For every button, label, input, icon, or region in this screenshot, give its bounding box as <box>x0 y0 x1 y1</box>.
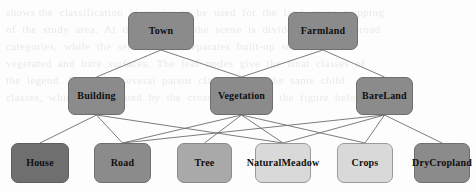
node-vegetation[interactable]: Vegetation <box>210 77 273 115</box>
edge-building-to-road <box>97 115 123 143</box>
node-tree[interactable]: Tree <box>177 143 232 183</box>
node-label: Bare <box>362 90 383 102</box>
edge-farmland-to-vegetation <box>242 50 324 77</box>
node-road[interactable]: Road <box>94 143 151 183</box>
node-label: Building <box>77 90 115 102</box>
edge-vegetation-to-tree <box>205 115 242 143</box>
edge-bareland-to-dry <box>385 115 443 143</box>
edge-town-to-building <box>97 50 162 77</box>
edge-town-to-vegetation <box>161 50 242 77</box>
node-label: Tree <box>195 157 215 169</box>
node-farmland[interactable]: Farmland <box>288 12 358 50</box>
node-label: Vegetation <box>218 90 265 102</box>
node-building[interactable]: Building <box>68 77 125 115</box>
node-label: Meadow <box>281 157 319 169</box>
node-label: Cropland <box>429 157 472 169</box>
edge-building-to-house <box>40 115 97 143</box>
edge-bareland-to-road <box>123 115 385 143</box>
node-town[interactable]: Town <box>128 12 194 50</box>
node-dry[interactable]: DryCropland <box>414 143 470 183</box>
node-label: Farmland <box>301 25 345 37</box>
node-label: Road <box>111 157 135 169</box>
edge-bareland-to-meadow <box>283 115 385 143</box>
node-label: Dry <box>412 157 429 169</box>
edge-vegetation-to-road <box>123 115 242 143</box>
edge-farmland-to-bareland <box>323 50 385 77</box>
node-label: Town <box>149 25 173 37</box>
edge-vegetation-to-meadow <box>242 115 284 143</box>
node-bareland[interactable]: BareLand <box>356 77 413 115</box>
node-meadow[interactable]: NaturalMeadow <box>255 143 311 183</box>
node-house[interactable]: House <box>11 143 69 183</box>
node-label: Crops <box>352 157 379 169</box>
node-label: Natural <box>247 157 282 169</box>
node-label: Land <box>383 90 407 102</box>
edge-building-to-meadow <box>97 115 284 143</box>
edge-bareland-to-crops <box>365 115 385 143</box>
edge-vegetation-to-crops <box>242 115 366 143</box>
diagram-canvas: shows the classification hierarchy to be… <box>0 0 476 192</box>
node-label: House <box>26 157 54 169</box>
node-crops[interactable]: Crops <box>337 143 393 183</box>
